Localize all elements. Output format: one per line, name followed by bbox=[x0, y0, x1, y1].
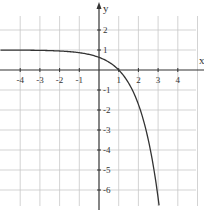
function-curve bbox=[1, 50, 160, 205]
y-tick-labels: 21-1-2-3-4-5-6 bbox=[103, 25, 111, 195]
x-tick-label: 2 bbox=[136, 75, 141, 85]
x-tick-label: -4 bbox=[16, 75, 24, 85]
y-tick-label: 2 bbox=[103, 25, 108, 35]
y-tick-label: 1 bbox=[103, 45, 108, 55]
function-graph: -4-3-2-11234 21-1-2-3-4-5-6 x y bbox=[0, 0, 204, 210]
y-tick-label: -2 bbox=[103, 105, 111, 115]
y-tick-label: -4 bbox=[103, 145, 111, 155]
x-axis-label: x bbox=[199, 54, 204, 66]
x-tick-label: 3 bbox=[156, 75, 161, 85]
y-axis-arrow-icon bbox=[97, 2, 102, 9]
y-tick-label: -3 bbox=[103, 125, 111, 135]
y-tick-label: -5 bbox=[103, 165, 111, 175]
y-tick-label: -6 bbox=[103, 185, 111, 195]
x-tick-label: 1 bbox=[116, 75, 121, 85]
y-tick-label: -1 bbox=[103, 85, 111, 95]
x-tick-label: -3 bbox=[36, 75, 44, 85]
x-tick-label: 4 bbox=[176, 75, 181, 85]
y-axis-label: y bbox=[103, 2, 109, 14]
x-tick-label: -1 bbox=[76, 75, 84, 85]
x-tick-label: -2 bbox=[56, 75, 64, 85]
